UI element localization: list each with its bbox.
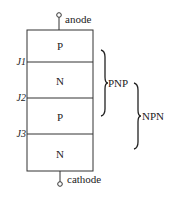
npn-label: NPN (142, 110, 164, 122)
junction-label-j1: J1 (17, 56, 26, 67)
npn-grouping: NPN (134, 83, 164, 149)
pnp-label: PNP (108, 77, 128, 89)
anode-terminal-circle (57, 13, 62, 18)
layer-4-label: N (56, 148, 64, 160)
layer-3-label: P (57, 111, 63, 123)
pnp-brace-icon (101, 50, 108, 116)
cathode-terminal-circle (58, 182, 63, 187)
layer-2-label: N (56, 75, 64, 87)
npn-brace-icon (134, 83, 141, 149)
thyristor-diagram: anode P N P N J1 J2 J3 cathode PNP NPN (0, 0, 176, 200)
junction-label-j3: J3 (17, 128, 26, 139)
pnp-grouping: PNP (101, 50, 128, 116)
anode-label: anode (65, 13, 91, 25)
cathode-terminal: cathode (58, 171, 102, 186)
layer-1-label: P (57, 40, 63, 52)
junction-label-j2: J2 (17, 92, 26, 103)
cathode-label: cathode (67, 173, 101, 185)
anode-terminal: anode (57, 13, 92, 30)
